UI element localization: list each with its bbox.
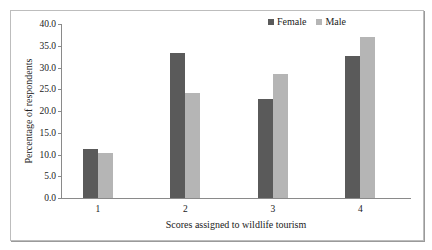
y-tick xyxy=(58,198,61,199)
y-tick-label: 15.0 xyxy=(20,128,56,138)
legend-label-male: Male xyxy=(325,16,346,27)
x-tick-label: 4 xyxy=(350,204,370,214)
x-axis-title: Scores assigned to wildlife tourism xyxy=(166,219,307,230)
bar-female-1 xyxy=(83,149,98,198)
bar-female-3 xyxy=(258,99,273,198)
legend-swatch-male xyxy=(316,19,322,25)
bar-female-2 xyxy=(170,53,185,198)
y-tick-label: 0.0 xyxy=(20,193,56,203)
x-tick-label: 1 xyxy=(88,204,108,214)
y-tick-label: 20.0 xyxy=(20,106,56,116)
y-axis xyxy=(61,24,62,198)
legend-item-male: Male xyxy=(316,16,346,27)
y-tick-label: 5.0 xyxy=(20,171,56,181)
y-tick-label: 30.0 xyxy=(20,63,56,73)
y-tick xyxy=(58,24,61,25)
y-tick-label: 25.0 xyxy=(20,84,56,94)
y-tick xyxy=(58,176,61,177)
bar-male-4 xyxy=(360,37,375,198)
legend-item-female: Female xyxy=(268,16,306,27)
y-tick xyxy=(58,133,61,134)
y-tick xyxy=(58,68,61,69)
legend: Female Male xyxy=(268,16,346,27)
x-tick-label: 2 xyxy=(175,204,195,214)
y-tick xyxy=(58,111,61,112)
y-tick xyxy=(58,46,61,47)
y-tick-label: 35.0 xyxy=(20,41,56,51)
bar-female-4 xyxy=(345,56,360,198)
y-tick xyxy=(58,89,61,90)
x-axis xyxy=(61,198,411,199)
y-tick xyxy=(58,155,61,156)
y-tick-label: 10.0 xyxy=(20,150,56,160)
x-tick-label: 3 xyxy=(263,204,283,214)
bar-male-1 xyxy=(98,153,113,198)
legend-swatch-female xyxy=(268,19,274,25)
bar-male-3 xyxy=(273,74,288,198)
bar-male-2 xyxy=(185,93,200,198)
legend-label-female: Female xyxy=(277,16,306,27)
y-tick-label: 40.0 xyxy=(20,19,56,29)
